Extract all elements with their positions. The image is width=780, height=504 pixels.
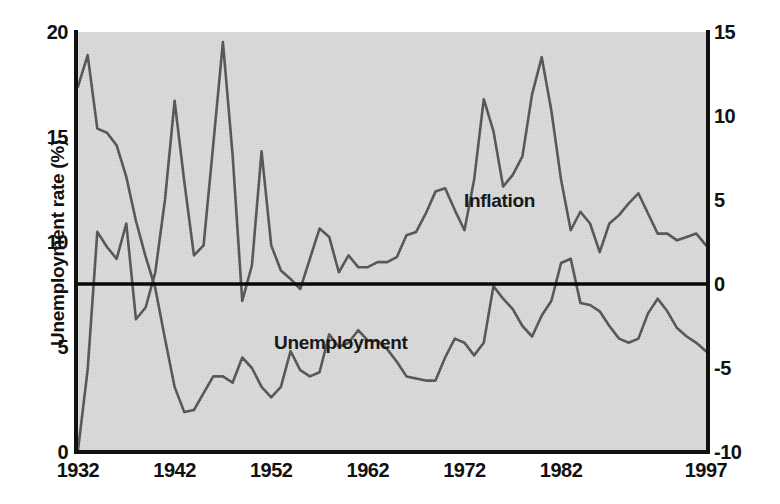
x-tick-1942: 1942 [153,460,196,480]
figure-container: Inflation Unemployment 05101520 -10-5051… [0,0,780,504]
right-tick-neg5: -5 [714,358,731,378]
x-tick-1932: 1932 [57,460,100,480]
series-label-inflation: Inflation [464,190,535,212]
inflation-line [78,42,706,450]
x-tick-1962: 1962 [347,460,390,480]
unemployment-line [78,55,706,412]
x-tick-1982: 1982 [540,460,583,480]
right-tick-10: 10 [714,106,735,126]
left-tick-20: 20 [0,22,68,42]
left-axis-title: Unemployment rate (%) [47,123,69,363]
x-tick-1997: 1997 [685,460,728,480]
chart-canvas [78,32,706,452]
right-tick-5: 5 [714,190,725,210]
x-tick-1952: 1952 [250,460,293,480]
x-tick-1972: 1972 [443,460,486,480]
series-label-unemployment: Unemployment [274,332,408,354]
right-axis-spine [706,30,710,454]
bottom-axis-spine [76,450,708,454]
right-tick-0: 0 [714,274,725,294]
plot-area: Inflation Unemployment [78,32,706,452]
left-axis-spine [74,30,78,454]
right-tick-15: 15 [714,22,735,42]
